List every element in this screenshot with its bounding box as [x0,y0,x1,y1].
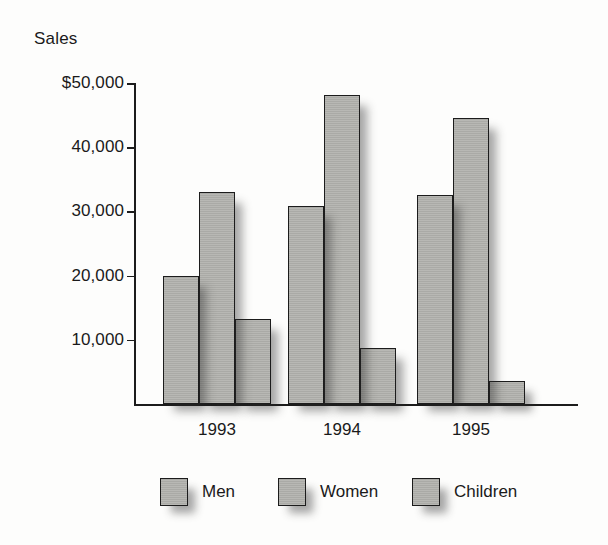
bar-women-1993 [199,192,235,404]
y-axis-tick-label: 40,000 [24,137,124,157]
bar-men-1994 [288,206,324,404]
y-axis-tick-label: 20,000 [24,266,124,286]
x-axis-label-1994: 1994 [302,420,382,440]
legend-swatch-children [412,478,440,506]
bar-group-1994 [288,70,396,404]
bar-children-1993 [235,319,271,404]
chart-legend: MenWomenChildren [0,478,608,528]
legend-item-men: Men [160,478,235,506]
bar-men-1995 [417,195,453,404]
legend-item-children: Children [412,478,517,506]
legend-item-women: Women [278,478,378,506]
plot-area [134,70,578,404]
bar-chart: Sales 10,00020,00030,00040,000$50,000 19… [0,0,608,545]
bar-group-1995 [417,70,525,404]
y-axis-tick-label: $50,000 [24,73,124,93]
bar-men-1993 [163,276,199,404]
legend-label-women: Women [320,482,378,502]
x-axis-label-1993: 1993 [177,420,257,440]
bar-group-1993 [163,70,271,404]
y-axis-tick-label: 30,000 [24,201,124,221]
bar-women-1995 [453,118,489,404]
legend-label-children: Children [454,482,517,502]
y-axis-tick-labels: 10,00020,00030,00040,000$50,000 [24,0,124,545]
legend-swatch-men [160,478,188,506]
bar-women-1994 [324,95,360,404]
bar-children-1995 [489,381,525,404]
legend-swatch-women [278,478,306,506]
bar-children-1994 [360,348,396,404]
x-axis-label-1995: 1995 [431,420,511,440]
y-axis-tick-label: 10,000 [24,330,124,350]
legend-label-men: Men [202,482,235,502]
x-axis-line [134,404,578,406]
